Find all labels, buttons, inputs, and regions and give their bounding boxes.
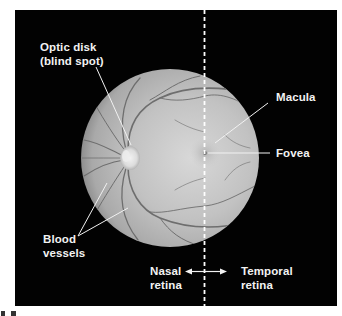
label-temporal-retina-line2: retina: [241, 279, 293, 293]
label-blood-vessels: Blood vessels: [43, 233, 85, 260]
label-optic-disk-line2: (blind spot): [40, 55, 104, 69]
label-nasal-retina: Nasal retina: [150, 265, 182, 292]
label-blood-vessels-line2: vessels: [43, 247, 85, 261]
label-temporal-retina: Temporal retina: [241, 265, 293, 292]
label-nasal-retina-line2: retina: [150, 279, 182, 293]
cropped-figure-caption-fragment: [0, 311, 18, 316]
label-temporal-retina-line1: Temporal: [241, 265, 293, 279]
label-macula-text: Macula: [276, 91, 316, 105]
fundus-image: [81, 69, 259, 247]
label-macula: Macula: [276, 91, 316, 105]
retina-fundus-diagram: Optic disk (blind spot) Macula Fovea Blo…: [0, 0, 342, 316]
label-fovea: Fovea: [276, 147, 310, 161]
label-optic-disk: Optic disk (blind spot): [40, 41, 104, 68]
label-optic-disk-line1: Optic disk: [40, 41, 104, 55]
label-nasal-retina-line1: Nasal: [150, 265, 182, 279]
label-blood-vessels-line1: Blood: [43, 233, 85, 247]
label-fovea-text: Fovea: [276, 147, 310, 161]
